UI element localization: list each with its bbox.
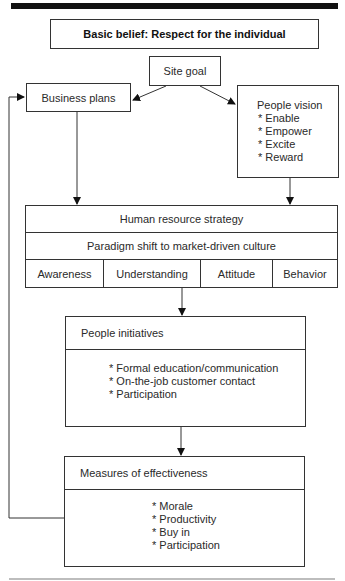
stages-row: Awareness Understanding Attitude Behavio… (26, 260, 337, 288)
stage-label: Attitude (218, 268, 255, 280)
stage-label: Awareness (37, 268, 91, 280)
stage-label: Understanding (116, 268, 188, 280)
measures-heading: Measures of effectiveness (80, 467, 208, 479)
stage-understanding: Understanding (104, 260, 201, 288)
stage-behavior: Behavior (273, 260, 337, 288)
measure-item: * Buy in (152, 526, 345, 539)
people-vision-node: People vision * Enable * Empower * Excit… (237, 85, 339, 178)
hr-strategy-heading-row: Human resource strategy (26, 206, 337, 233)
people-vision-item: * Enable (257, 112, 338, 125)
paradigm-shift-label: Paradigm shift to market-driven culture (87, 240, 276, 252)
paradigm-shift-row: Paradigm shift to market-driven culture (26, 233, 337, 260)
site-goal-node: Site goal (149, 56, 221, 86)
people-initiatives-node: People initiatives * Formal education/co… (65, 316, 306, 427)
measures-node: Measures of effectiveness * Morale * Pro… (64, 456, 305, 567)
hr-strategy-node: Human resource strategy Paradigm shift t… (25, 205, 338, 288)
people-vision-item: * Reward (257, 151, 338, 164)
people-initiatives-list: * Formal education/communication * On-th… (66, 362, 345, 401)
measure-item: * Participation (152, 539, 345, 552)
people-vision-heading: People vision (257, 99, 338, 112)
initiative-item: * Formal education/communication (109, 362, 345, 375)
stage-attitude: Attitude (201, 260, 273, 288)
people-vision-item: * Excite (257, 138, 338, 151)
stage-awareness: Awareness (26, 260, 104, 288)
business-plans-label: Business plans (42, 92, 116, 104)
people-vision-item: * Empower (257, 125, 338, 138)
measures-list: * Morale * Productivity * Buy in * Parti… (65, 500, 345, 552)
initiative-item: * Participation (109, 388, 345, 401)
people-initiatives-heading-row: People initiatives (66, 317, 305, 350)
stage-label: Behavior (283, 268, 326, 280)
site-goal-label: Site goal (164, 65, 207, 77)
initiative-item: * On-the-job customer contact (109, 375, 345, 388)
measure-item: * Morale (152, 500, 345, 513)
people-initiatives-heading: People initiatives (81, 327, 164, 339)
measure-item: * Productivity (152, 513, 345, 526)
business-plans-node: Business plans (26, 83, 131, 112)
basic-belief-box: Basic belief: Respect for the individual (50, 19, 319, 49)
measures-heading-row: Measures of effectiveness (65, 457, 304, 490)
bottom-rule (9, 578, 335, 580)
hr-strategy-heading: Human resource strategy (120, 213, 244, 225)
basic-belief-title: Basic belief: Respect for the individual (83, 28, 285, 40)
